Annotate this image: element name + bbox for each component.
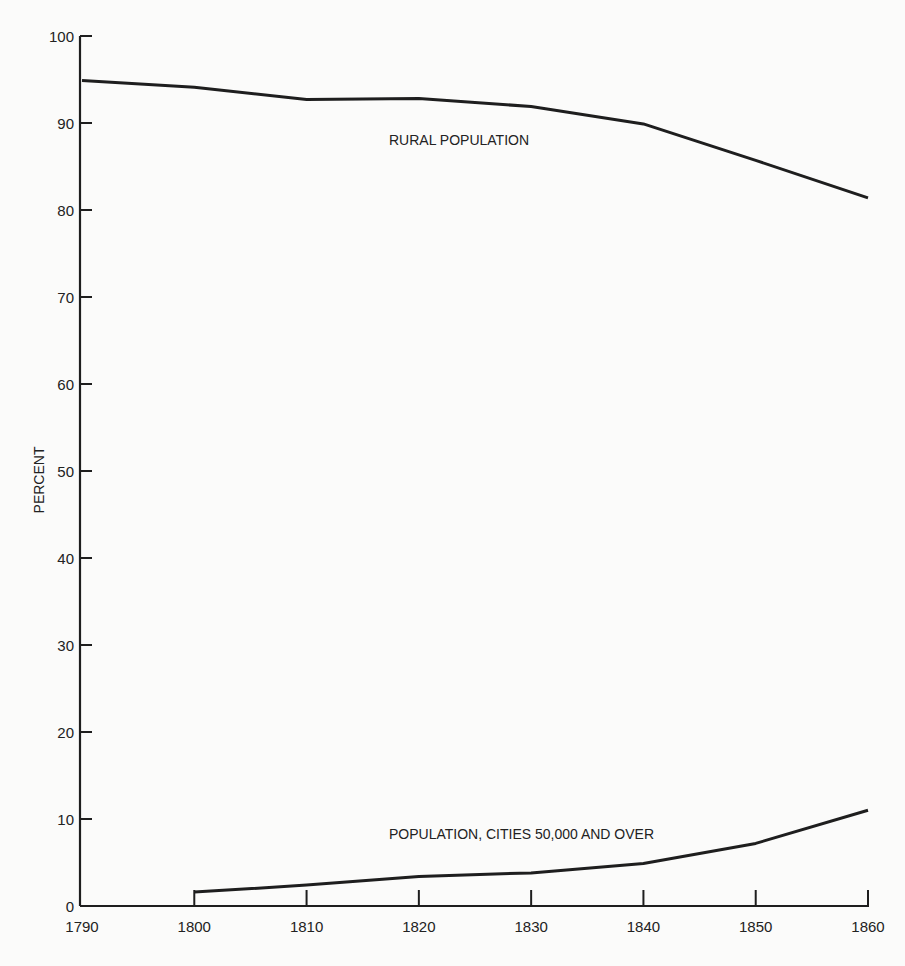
y-tick-label: 80: [57, 202, 74, 219]
x-tick-label: 1800: [178, 918, 211, 935]
y-tick-label: 40: [57, 550, 74, 567]
series-label-rural: RURAL POPULATION: [389, 132, 529, 148]
y-ticks: 0102030405060708090100: [49, 28, 92, 915]
y-tick-label: 20: [57, 724, 74, 741]
y-tick-label: 60: [57, 376, 74, 393]
y-tick-label: 30: [57, 637, 74, 654]
y-axis-title: PERCENT: [31, 446, 47, 513]
y-tick-label: 70: [57, 289, 74, 306]
series-label-cities: POPULATION, CITIES 50,000 AND OVER: [389, 826, 654, 842]
x-tick-label: 1860: [851, 918, 884, 935]
y-tick-label: 50: [57, 463, 74, 480]
x-tick-label: 1850: [739, 918, 772, 935]
line-chart: 0102030405060708090100 17901800181018201…: [0, 0, 905, 966]
x-tick-label: 1810: [290, 918, 323, 935]
x-tick-label: 1820: [402, 918, 435, 935]
y-tick-label: 90: [57, 115, 74, 132]
y-tick-label: 10: [57, 811, 74, 828]
y-tick-label: 0: [66, 898, 74, 915]
x-tick-label: 1840: [627, 918, 660, 935]
y-tick-label: 100: [49, 28, 74, 45]
series-lines: [82, 80, 868, 892]
axes: [80, 36, 869, 906]
x-tick-label: 1830: [514, 918, 547, 935]
cities-population-line: [194, 810, 868, 892]
x-tick-label: 1790: [65, 918, 98, 935]
x-ticks: 17901800181018201830184018501860: [65, 890, 884, 935]
